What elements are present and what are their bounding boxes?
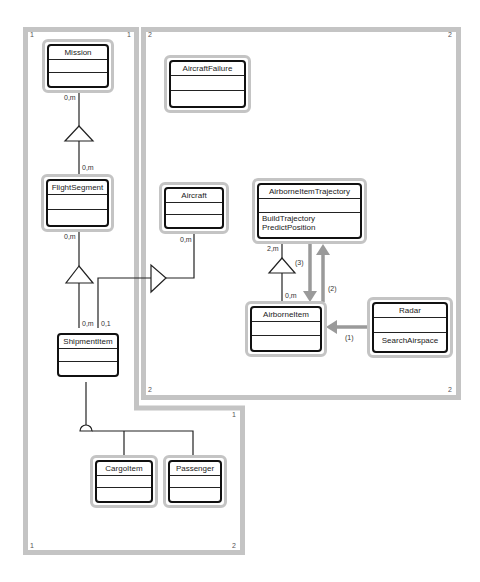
frame-2-label-bl: 2 xyxy=(148,386,152,393)
class-name: CargoItem xyxy=(97,462,151,476)
generalization-triangle-aircraft xyxy=(151,265,166,292)
aggregation-semicircle xyxy=(80,425,92,431)
class-passenger[interactable]: Passenger xyxy=(163,455,227,508)
frame-2-label-tl: 2 xyxy=(148,31,152,38)
mult-flightsegment-up: 0,m xyxy=(82,164,94,171)
mult-aircraft: 0,m xyxy=(180,236,192,243)
class-shipment-item[interactable]: ShipmentItem xyxy=(52,328,124,382)
message-label-3: (3) xyxy=(295,259,304,266)
message-label-1: (1) xyxy=(345,334,354,341)
mult-mission: 0,m xyxy=(64,94,76,101)
frame-1-label-tr: 1 xyxy=(127,31,131,38)
class-flight-segment[interactable]: FlightSegment xyxy=(41,174,114,232)
class-name: Aircraft xyxy=(166,189,222,203)
frame-1-label-r: 1 xyxy=(232,411,236,418)
message-arrow-1-head xyxy=(326,320,337,334)
message-arrow-2-head xyxy=(316,244,330,255)
mult-airborne: 0,m xyxy=(285,292,297,299)
class-name: AirborneItemTrajectory xyxy=(259,185,360,199)
class-airborne-item[interactable]: AirborneItem xyxy=(245,301,327,357)
class-name: AirborneItem xyxy=(252,308,320,322)
mult-flightsegment-down: 0,m xyxy=(64,233,76,240)
class-name: Passenger xyxy=(170,462,220,476)
generalization-triangle-flightsegment xyxy=(66,266,93,283)
frame-1-label-bl: 1 xyxy=(30,542,34,549)
class-name: AircraftFailure xyxy=(171,62,244,76)
operation-predict-position: PredictPosition xyxy=(262,223,357,232)
class-cargo-item[interactable]: CargoItem xyxy=(90,455,158,508)
frame-2-label-br: 2 xyxy=(448,386,452,393)
generalization-triangle-mission xyxy=(65,126,93,141)
message-label-2: (2) xyxy=(328,285,337,292)
class-name: FlightSegment xyxy=(48,181,107,195)
class-radar[interactable]: Radar SearchAirspace xyxy=(367,297,453,358)
class-mission[interactable]: Mission xyxy=(42,39,114,93)
class-aircraft-failure[interactable]: AircraftFailure xyxy=(164,55,251,113)
class-airborne-item-trajectory[interactable]: AirborneItemTrajectory BuildTrajectory P… xyxy=(252,178,367,244)
class-name: ShipmentItem xyxy=(59,335,117,349)
mult-shipment-right: 0,1 xyxy=(101,320,111,327)
frame-2-label-tr: 2 xyxy=(448,31,452,38)
mult-trajectory: 2,m xyxy=(267,245,279,252)
class-name: Radar xyxy=(374,304,446,318)
operation-search-airspace: SearchAirspace xyxy=(374,333,446,351)
operation-build-trajectory: BuildTrajectory xyxy=(262,214,357,223)
diagram-canvas: 1 1 1 1 2 2 2 2 2 Mission FlightSegment … xyxy=(0,0,480,582)
frame-1-label-br: 2 xyxy=(232,542,236,549)
operations-list: BuildTrajectory PredictPosition xyxy=(259,213,360,237)
mult-shipment-left: 0,m xyxy=(82,320,94,327)
class-aircraft[interactable]: Aircraft xyxy=(159,182,229,234)
class-name: Mission xyxy=(49,46,107,60)
frame-1-label-tl: 1 xyxy=(30,31,34,38)
generalization-triangle-trajectory xyxy=(269,258,295,273)
